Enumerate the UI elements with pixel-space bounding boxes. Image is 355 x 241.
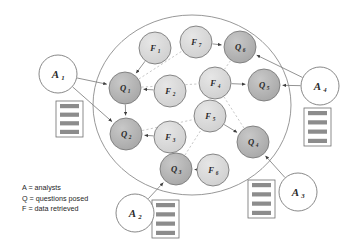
edge-dotted-q6-f4 <box>224 61 230 70</box>
node-f3[interactable]: F3 <box>154 121 186 153</box>
node-a4[interactable]: A4 <box>301 67 339 105</box>
node-subscript-f3: 3 <box>172 137 176 143</box>
edge-a3-q4 <box>265 156 285 178</box>
node-label-f4: F <box>209 78 216 88</box>
node-subscript-q1: 1 <box>128 88 131 94</box>
edge-f3-q2 <box>145 135 154 136</box>
node-q5[interactable]: Q5 <box>248 69 280 101</box>
node-label-f2: F <box>164 86 171 96</box>
legend-layer: A = analystsQ = questions posedF = data … <box>22 183 88 213</box>
node-label-f6: F <box>207 165 214 175</box>
node-label-q5: Q <box>259 80 265 90</box>
node-subscript-a4: 4 <box>322 86 327 93</box>
node-f5[interactable]: F5 <box>194 100 226 132</box>
node-subscript-f1: 1 <box>158 48 161 54</box>
node-subscript-f2: 2 <box>172 91 176 97</box>
node-f4[interactable]: F4 <box>199 67 231 99</box>
node-q2[interactable]: Q2 <box>110 118 142 150</box>
document-icon-a2 <box>152 200 179 238</box>
node-a2[interactable]: A2 <box>116 194 154 232</box>
edge-f7-q6 <box>212 44 221 45</box>
node-subscript-q3: 3 <box>178 169 182 175</box>
node-label-a4: A <box>313 80 321 92</box>
node-subscript-a2: 2 <box>137 213 142 220</box>
node-subscript-a3: 3 <box>300 192 305 199</box>
edge-f1-q1 <box>136 61 145 73</box>
node-q3[interactable]: Q3 <box>160 153 192 185</box>
node-label-f7: F <box>190 37 197 47</box>
node-subscript-q2: 2 <box>128 134 132 140</box>
node-subscript-q5: 5 <box>267 85 270 91</box>
edge-f2-q1 <box>144 89 154 90</box>
document-icon-a1 <box>56 101 83 137</box>
node-q4[interactable]: Q4 <box>237 126 269 158</box>
node-label-q1: Q <box>120 83 126 93</box>
node-a3[interactable]: A3 <box>279 173 317 211</box>
node-label-q2: Q <box>121 129 127 139</box>
node-subscript-q6: 6 <box>243 47 246 53</box>
node-subscript-a1: 1 <box>61 74 64 81</box>
node-label-f5: F <box>204 111 211 121</box>
legend-line-1: Q = questions posed <box>22 194 88 203</box>
node-label-a1: A <box>51 68 59 80</box>
node-f7[interactable]: F7 <box>180 26 212 58</box>
node-a1[interactable]: A1 <box>39 55 77 93</box>
node-f2[interactable]: F2 <box>154 75 186 107</box>
node-subscript-q4: 4 <box>255 142 259 148</box>
node-label-f3: F <box>164 132 171 142</box>
edge-f4-q5 <box>231 84 245 85</box>
document-icon-a3 <box>248 180 275 218</box>
edge-f5-q4 <box>224 125 237 133</box>
edge-dotted-q3-f5 <box>185 130 201 155</box>
node-label-a2: A <box>128 207 136 219</box>
node-subscript-f5: 5 <box>213 116 216 122</box>
node-f1[interactable]: F1 <box>139 32 171 64</box>
node-subscript-f4: 4 <box>217 83 221 89</box>
node-label-q6: Q <box>235 42 241 52</box>
diagram-canvas: F1F2F3F4F5F6F7Q1Q2Q3Q4Q5Q6A1A2A3A4 A = a… <box>0 0 355 241</box>
legend-line-0: A = analysts <box>22 183 61 192</box>
node-q6[interactable]: Q6 <box>224 31 256 63</box>
node-label-f1: F <box>149 43 156 53</box>
node-subscript-f6: 6 <box>216 170 219 176</box>
node-label-a3: A <box>291 186 299 198</box>
diagram-svg: F1F2F3F4F5F6F7Q1Q2Q3Q4Q5Q6A1A2A3A4 A = a… <box>0 0 355 241</box>
node-label-q4: Q <box>248 137 254 147</box>
node-label-q3: Q <box>171 164 177 174</box>
node-subscript-f7: 7 <box>199 42 202 48</box>
edge-a1-q1 <box>77 78 107 84</box>
edge-dotted-q4-f4 <box>224 97 244 128</box>
document-icon-a4 <box>304 108 331 146</box>
node-f6[interactable]: F6 <box>197 154 229 186</box>
node-q1[interactable]: Q1 <box>109 72 141 104</box>
legend-line-2: F = data retrieved <box>22 204 79 213</box>
